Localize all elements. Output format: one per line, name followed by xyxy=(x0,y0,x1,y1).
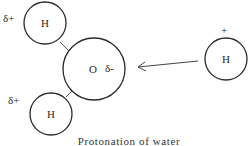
atom-h-top-left: H δ+ xyxy=(3,2,66,44)
bond-h-bottom-left-oxygen xyxy=(66,91,72,97)
atom-h-bottom-left: H δ+ xyxy=(8,93,72,135)
partial-charge-label: δ+ xyxy=(3,12,14,24)
arrow-icon xyxy=(138,61,198,71)
atom-h-proton: H + xyxy=(205,24,247,80)
diagram-caption: Protonation of water xyxy=(78,135,180,146)
bond-h-top-left-oxygen xyxy=(60,42,69,51)
atom-label: O xyxy=(89,63,97,75)
atom-label: H xyxy=(222,53,230,65)
arrow-shaft xyxy=(138,61,198,67)
charge-label: + xyxy=(221,24,227,36)
atom-oxygen: O δ- xyxy=(63,38,125,100)
atom-label: H xyxy=(47,108,55,120)
partial-charge-label: δ+ xyxy=(8,94,19,106)
partial-charge-label: δ- xyxy=(105,62,114,74)
atom-label: H xyxy=(41,17,49,29)
protonation-diagram: H δ+ O δ- H δ+ H + Protonation of water xyxy=(0,0,252,146)
